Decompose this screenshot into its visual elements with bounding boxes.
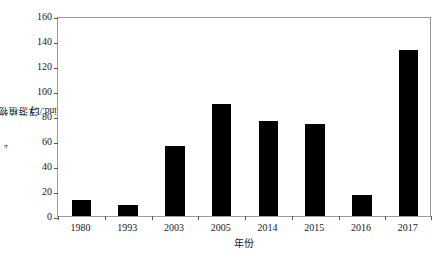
x-axis-tick-label: 2014 — [244, 222, 291, 234]
x-axis-tick-label: 2005 — [197, 222, 244, 234]
y-axis-tick-mark — [54, 93, 58, 94]
x-axis-tick-mark — [385, 216, 386, 220]
y-axis-tick-mark — [54, 143, 58, 144]
y-axis-tick-label: 40 — [22, 162, 52, 172]
plot-area — [57, 17, 431, 217]
bar — [399, 50, 419, 216]
bar — [118, 205, 138, 216]
y-axis-title-exponent: 4 — [2, 144, 9, 147]
x-axis-tick-mark — [292, 216, 293, 220]
y-axis-tick-label: 0 — [22, 212, 52, 222]
y-axis-tick-label: 20 — [22, 187, 52, 197]
bar — [352, 195, 372, 216]
bar — [212, 104, 232, 217]
bar — [259, 121, 279, 216]
x-axis-tick-label: 1993 — [104, 222, 151, 234]
x-axis-tick-mark — [105, 216, 106, 220]
x-axis-tick-label: 2017 — [384, 222, 431, 234]
x-axis-tick-mark — [58, 216, 59, 220]
y-axis-tick-labels: 020406080100120140160 — [22, 17, 52, 217]
x-axis-tick-mark — [152, 216, 153, 220]
y-axis-tick-mark — [54, 193, 58, 194]
y-axis-tick-label: 80 — [22, 112, 52, 122]
bar-chart-figure: 浮游植物丰度/(104 ind./L) 02040608010012014016… — [0, 0, 444, 260]
y-axis-tick-label: 100 — [22, 87, 52, 97]
x-axis-tick-labels: 19801993200320052014201520162017 — [57, 222, 431, 238]
bar — [165, 146, 185, 216]
y-axis-tick-label: 120 — [22, 62, 52, 72]
y-axis-tick-mark — [54, 43, 58, 44]
bar — [305, 124, 325, 217]
y-axis-tick-mark — [54, 168, 58, 169]
y-axis-tick-mark — [54, 118, 58, 119]
y-axis-tick-label: 140 — [22, 37, 52, 47]
x-axis-tick-mark — [431, 216, 432, 220]
x-axis-title: 年份 — [57, 238, 431, 250]
x-axis-tick-label: 1980 — [57, 222, 104, 234]
x-axis-tick-mark — [339, 216, 340, 220]
x-axis-tick-label: 2015 — [291, 222, 338, 234]
x-axis-tick-label: 2016 — [338, 222, 385, 234]
x-axis-tick-mark — [198, 216, 199, 220]
bar — [72, 200, 92, 216]
y-axis-tick-mark — [54, 18, 58, 19]
x-axis-tick-mark — [245, 216, 246, 220]
bars-layer — [58, 18, 430, 216]
y-axis-tick-label: 60 — [22, 137, 52, 147]
y-axis-title: 浮游植物丰度/(104 ind./L) — [0, 0, 20, 220]
x-axis-tick-label: 2003 — [151, 222, 198, 234]
y-axis-tick-mark — [54, 68, 58, 69]
y-axis-tick-label: 160 — [22, 12, 52, 22]
